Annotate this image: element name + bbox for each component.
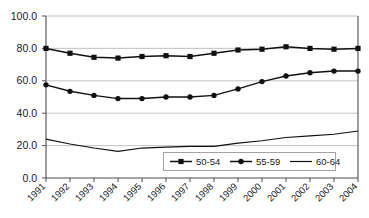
y-tick-label: 20.0 — [17, 139, 38, 151]
y-axis-tick-marks — [42, 16, 46, 178]
x-tick-label: 2001 — [265, 181, 288, 204]
y-tick-label: 80.0 — [17, 42, 38, 54]
legend-label-50-54: 50-54 — [196, 156, 220, 167]
x-tick-label: 1993 — [73, 181, 96, 204]
x-tick-label: 1996 — [145, 181, 168, 204]
x-tick-label: 1998 — [193, 181, 216, 204]
x-tick-label: 2003 — [313, 181, 336, 204]
x-tick-label: 1991 — [25, 181, 48, 204]
legend-label-60-64: 60-64 — [316, 156, 340, 167]
y-tick-label: 100.0 — [11, 10, 37, 22]
x-tick-label: 1992 — [49, 181, 72, 204]
x-axis-tick-labels: 1991199219931994199519961997199819992000… — [25, 181, 360, 204]
legend-label-55-59: 55-59 — [256, 156, 280, 167]
y-tick-label: 40.0 — [17, 107, 38, 119]
y-axis-tick-labels: 0.020.040.060.080.0100.0 — [11, 10, 37, 184]
x-tick-label: 1999 — [217, 181, 240, 204]
chart-container: 0.020.040.060.080.0100.0 199119921993199… — [0, 0, 369, 218]
line-chart: 0.020.040.060.080.0100.0 199119921993199… — [0, 0, 369, 218]
y-tick-label: 0.0 — [22, 172, 37, 184]
x-tick-label: 2000 — [241, 181, 264, 204]
chart-legend: 50-5455-5960-64 — [164, 153, 341, 171]
y-tick-label: 60.0 — [17, 74, 38, 86]
x-tick-label: 2002 — [289, 181, 312, 204]
x-tick-label: 2004 — [337, 181, 360, 204]
x-tick-label: 1995 — [121, 181, 144, 204]
x-tick-label: 1994 — [97, 181, 120, 204]
x-axis-tick-marks — [46, 178, 358, 182]
x-tick-label: 1997 — [169, 181, 192, 204]
